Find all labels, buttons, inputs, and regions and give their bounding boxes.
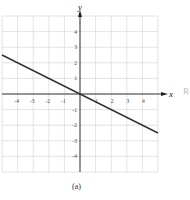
figure-caption: (a) (72, 182, 81, 191)
svg-text:3: 3 (126, 98, 129, 104)
svg-text:-1: -1 (61, 98, 66, 104)
side-label: R (183, 86, 189, 96)
svg-text:2: 2 (74, 60, 77, 66)
svg-text:-3: -3 (72, 138, 77, 144)
svg-text:-1: -1 (72, 107, 77, 113)
svg-text:-4: -4 (14, 98, 19, 104)
svg-text:-3: -3 (30, 98, 35, 104)
svg-text:-4: -4 (72, 153, 77, 159)
svg-text:2: 2 (111, 98, 114, 104)
axes: xy (2, 2, 173, 172)
svg-text:1: 1 (74, 75, 77, 81)
svg-text:y: y (77, 2, 82, 12)
svg-text:3: 3 (74, 44, 77, 50)
coordinate-graph: xy -4-3-2-11234-4-3-2-11234 (0, 0, 190, 200)
svg-text:4: 4 (74, 29, 77, 35)
svg-text:x: x (168, 89, 173, 99)
svg-text:4: 4 (142, 98, 145, 104)
svg-text:-2: -2 (72, 122, 77, 128)
svg-text:-2: -2 (46, 98, 51, 104)
